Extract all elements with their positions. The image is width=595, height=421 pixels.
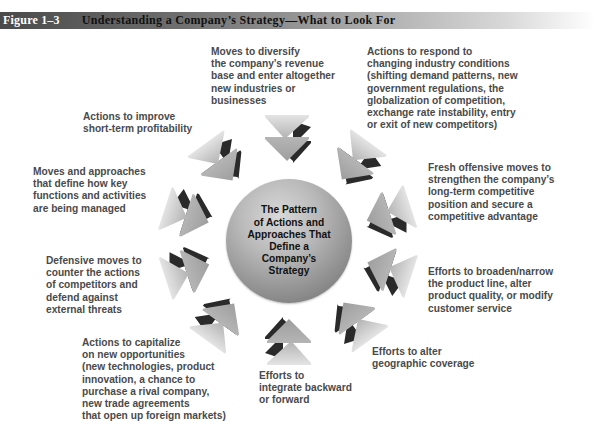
label-geographic: Efforts to alter geographic coverage	[372, 346, 474, 370]
label-diversify: Moves to diversify the company’s revenue…	[211, 46, 335, 107]
center-sphere: The Pattern of Actions and Approaches Th…	[226, 179, 352, 303]
double-chevron-arrow-icon	[261, 115, 315, 165]
label-defensive: Defensive moves to counter the actions o…	[46, 255, 142, 316]
figure-number: Figure 1–3	[3, 13, 60, 28]
label-functions: Moves and approaches that define how key…	[33, 166, 146, 215]
center-sphere-text: The Pattern of Actions and Approaches Th…	[247, 204, 330, 277]
label-product-line: Efforts to broaden/narrow the product li…	[428, 266, 553, 315]
label-integrate: Efforts to integrate backward or forward	[259, 370, 352, 407]
figure-title: Understanding a Company’s Strategy—What …	[82, 13, 396, 28]
label-capitalize: Actions to capitalize on new opportuniti…	[82, 337, 226, 421]
double-chevron-arrow-icon	[261, 315, 315, 365]
label-offensive-moves: Fresh offensive moves to strengthen the …	[428, 162, 554, 223]
label-respond-conditions: Actions to respond to changing industry …	[367, 46, 518, 131]
figure-header: Figure 1–3 Understanding a Company’s Str…	[0, 12, 595, 29]
label-profitability: Actions to improve short-term profitabil…	[83, 111, 192, 135]
